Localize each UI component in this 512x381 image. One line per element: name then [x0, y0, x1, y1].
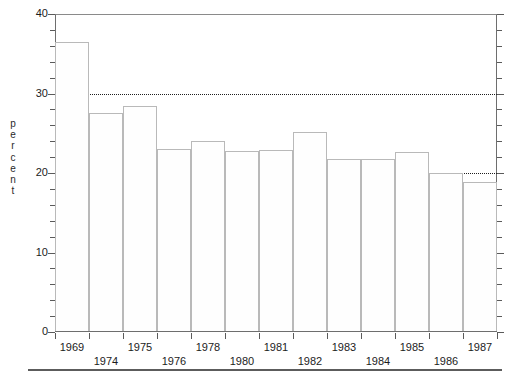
- bar[interactable]: [361, 159, 395, 332]
- y-major-tick-left: [48, 14, 55, 15]
- bar[interactable]: [123, 106, 157, 332]
- x-tick-label: 1984: [356, 355, 400, 367]
- y-major-tick-left: [48, 94, 55, 95]
- y-minor-tick-right: [497, 30, 502, 31]
- y-tick-label: 30: [22, 87, 48, 99]
- x-axis-tick: [123, 333, 124, 339]
- y-major-tick-left: [48, 332, 55, 333]
- bar[interactable]: [89, 113, 123, 332]
- y-minor-tick-right: [497, 189, 502, 190]
- y-minor-tick-right: [497, 205, 502, 206]
- x-tick-label: 1982: [288, 355, 332, 367]
- x-tick-label: 1987: [458, 341, 502, 353]
- y-minor-tick-right: [497, 300, 502, 301]
- x-tick-label: 1974: [84, 355, 128, 367]
- bar-chart: p e r c e n t 010203040 1969197419751976…: [0, 0, 512, 381]
- y-tick-label: 20: [22, 166, 48, 178]
- x-axis-tick: [429, 333, 430, 339]
- x-axis-tick: [157, 333, 158, 339]
- x-axis-tick: [327, 333, 328, 339]
- x-tick-label: 1975: [118, 341, 162, 353]
- x-tick-label: 1976: [152, 355, 196, 367]
- y-major-tick-left: [48, 173, 55, 174]
- y-minor-tick-right: [497, 237, 502, 238]
- y-major-tick-right: [497, 253, 504, 254]
- bar[interactable]: [395, 152, 429, 332]
- y-minor-tick-right: [497, 62, 502, 63]
- x-axis-tick: [293, 333, 294, 339]
- y-minor-tick-right: [497, 125, 502, 126]
- x-axis-tick: [55, 333, 56, 339]
- bar[interactable]: [327, 159, 361, 332]
- x-axis-tick: [225, 333, 226, 339]
- footer-rule: [28, 369, 502, 371]
- x-axis-tick: [191, 333, 192, 339]
- y-minor-tick-right: [497, 268, 502, 269]
- y-tick-label: 10: [22, 246, 48, 258]
- y-minor-tick-right: [497, 157, 502, 158]
- x-tick-label: 1980: [220, 355, 264, 367]
- x-axis-tick: [395, 333, 396, 339]
- bar[interactable]: [225, 151, 259, 332]
- x-axis-tick: [259, 333, 260, 339]
- y-tick-label: 0: [22, 325, 48, 337]
- y-minor-tick-left: [50, 30, 55, 31]
- bar[interactable]: [259, 150, 293, 332]
- y-axis-title: p e r c e n t: [6, 118, 20, 196]
- x-axis-tick: [361, 333, 362, 339]
- y-minor-tick-right: [497, 141, 502, 142]
- bar[interactable]: [293, 132, 327, 332]
- x-tick-label: 1978: [186, 341, 230, 353]
- x-tick-label: 1983: [322, 341, 366, 353]
- x-axis-baseline: [55, 331, 497, 332]
- y-major-tick-right: [497, 14, 504, 15]
- y-minor-tick-right: [497, 109, 502, 110]
- y-minor-tick-right: [497, 284, 502, 285]
- y-major-tick-left: [48, 253, 55, 254]
- bar[interactable]: [191, 141, 225, 332]
- gridline-y-30: [55, 94, 497, 95]
- x-tick-label: 1969: [50, 341, 94, 353]
- x-axis-tick: [463, 333, 464, 339]
- y-tick-label: 40: [22, 7, 48, 19]
- y-minor-tick-right: [497, 221, 502, 222]
- bar[interactable]: [55, 42, 89, 332]
- x-tick-label: 1985: [390, 341, 434, 353]
- bar[interactable]: [429, 173, 463, 332]
- x-tick-label: 1981: [254, 341, 298, 353]
- x-axis-tick: [89, 333, 90, 339]
- bar[interactable]: [157, 149, 191, 332]
- x-axis-tick: [497, 333, 498, 339]
- y-minor-tick-right: [497, 78, 502, 79]
- y-minor-tick-right: [497, 46, 502, 47]
- y-minor-tick-right: [497, 316, 502, 317]
- y-major-tick-right: [497, 94, 504, 95]
- bar[interactable]: [463, 182, 497, 332]
- y-major-tick-right: [497, 173, 504, 174]
- x-tick-label: 1986: [424, 355, 468, 367]
- y-major-tick-right: [497, 332, 504, 333]
